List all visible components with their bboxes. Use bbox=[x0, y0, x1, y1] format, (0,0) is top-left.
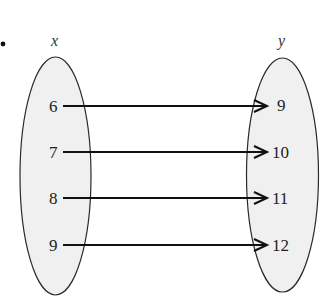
range-value: 9 bbox=[277, 96, 286, 115]
range-set-ellipse bbox=[247, 58, 319, 292]
range-value: 10 bbox=[272, 143, 289, 162]
domain-value: 9 bbox=[49, 236, 58, 255]
range-value: 11 bbox=[272, 189, 288, 208]
range-value: 12 bbox=[272, 236, 289, 255]
mapping-arrow bbox=[63, 146, 267, 158]
list-bullet bbox=[1, 42, 6, 47]
domain-value: 7 bbox=[49, 143, 58, 162]
mapping-arrow bbox=[63, 192, 267, 204]
domain-value: 8 bbox=[49, 189, 58, 208]
domain-set-ellipse bbox=[20, 57, 91, 295]
domain-label: x bbox=[50, 32, 58, 49]
mapping-arrow bbox=[63, 100, 267, 112]
domain-value: 6 bbox=[49, 97, 58, 116]
mapping-diagram: x y 6 7 8 9 9 10 11 12 bbox=[0, 0, 329, 301]
range-label: y bbox=[276, 32, 286, 50]
mapping-arrow bbox=[63, 239, 267, 251]
